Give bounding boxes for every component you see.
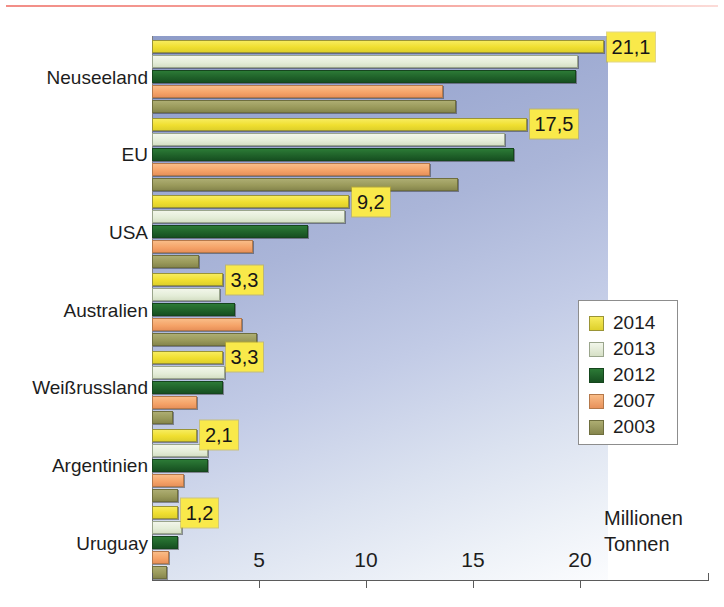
bar-eu-2013 bbox=[152, 133, 505, 146]
bar-weißrussland-2012 bbox=[152, 381, 223, 394]
legend-item-2012: 2012 bbox=[589, 362, 677, 388]
bar-neuseeland-2007 bbox=[152, 85, 443, 98]
bar-eu-2003 bbox=[152, 178, 458, 191]
bar-neuseeland-2014 bbox=[152, 40, 604, 53]
x-tick-5 bbox=[259, 580, 260, 588]
legend-label-2013: 2013 bbox=[613, 338, 655, 360]
unit-line-2: Tonnen bbox=[604, 531, 683, 557]
x-tick-label-20: 20 bbox=[568, 548, 591, 572]
x-tick-20 bbox=[580, 580, 581, 588]
legend-swatch-2013-icon bbox=[589, 342, 604, 357]
bar-uruguay-2003 bbox=[152, 566, 167, 579]
bar-argentinien-2007 bbox=[152, 474, 184, 487]
legend: 2014 2013 2012 2007 2003 bbox=[578, 300, 678, 445]
bar-neuseeland-2013 bbox=[152, 55, 578, 68]
category-label-neuseeland: Neuseeland bbox=[8, 67, 148, 89]
axis-unit-caption: Millionen Tonnen bbox=[604, 505, 683, 558]
legend-label-2012: 2012 bbox=[613, 364, 655, 386]
bar-australien-2012 bbox=[152, 303, 235, 316]
legend-item-2014: 2014 bbox=[589, 310, 677, 336]
legend-swatch-2012-icon bbox=[589, 368, 604, 383]
value-label-argentinien: 2,1 bbox=[200, 421, 238, 450]
bar-uruguay-2012 bbox=[152, 536, 178, 549]
bar-eu-2014 bbox=[152, 118, 527, 131]
bar-argentinien-2003 bbox=[152, 489, 178, 502]
value-label-usa: 9,2 bbox=[352, 187, 390, 216]
category-label-uruguay: Uruguay bbox=[8, 533, 148, 555]
legend-label-2014: 2014 bbox=[613, 312, 655, 334]
bar-weißrussland-2003 bbox=[152, 411, 173, 424]
value-label-neuseeland: 21,1 bbox=[607, 32, 656, 61]
bar-usa-2003 bbox=[152, 255, 199, 268]
category-label-usa: USA bbox=[8, 222, 148, 244]
legend-label-2007: 2007 bbox=[613, 390, 655, 412]
x-tick-label-15: 15 bbox=[461, 548, 484, 572]
legend-swatch-2003-icon bbox=[589, 420, 604, 435]
category-label-eu: EU bbox=[8, 144, 148, 166]
legend-item-2007: 2007 bbox=[589, 388, 677, 414]
bar-eu-2007 bbox=[152, 163, 430, 176]
bar-argentinien-2014 bbox=[152, 429, 197, 442]
bar-argentinien-2012 bbox=[152, 459, 208, 472]
x-axis-start-cap bbox=[152, 573, 153, 581]
bar-neuseeland-2012 bbox=[152, 70, 576, 83]
x-tick-label-10: 10 bbox=[354, 548, 377, 572]
bar-uruguay-2007 bbox=[152, 551, 169, 564]
value-label-weißrussland: 3,3 bbox=[226, 343, 264, 372]
bar-usa-2012 bbox=[152, 225, 308, 238]
bar-uruguay-2014 bbox=[152, 506, 178, 519]
bar-weißrussland-2014 bbox=[152, 351, 223, 364]
bar-neuseeland-2003 bbox=[152, 100, 456, 113]
value-label-uruguay: 1,2 bbox=[181, 498, 219, 527]
bar-usa-2007 bbox=[152, 240, 253, 253]
bar-uruguay-2013 bbox=[152, 521, 182, 534]
bar-australien-2014 bbox=[152, 273, 223, 286]
bar-eu-2012 bbox=[152, 148, 514, 161]
value-label-australien: 3,3 bbox=[226, 265, 264, 294]
x-axis-line bbox=[152, 580, 709, 581]
legend-item-2003: 2003 bbox=[589, 414, 677, 440]
category-label-weißrussland: Weißrussland bbox=[8, 377, 148, 399]
x-tick-10 bbox=[366, 580, 367, 588]
unit-line-1: Millionen bbox=[604, 505, 683, 531]
bar-australien-2013 bbox=[152, 288, 220, 301]
category-axis-labels: NeuseelandEUUSAAustralienWeißrusslandArg… bbox=[0, 0, 148, 607]
x-tick-15 bbox=[473, 580, 474, 588]
legend-swatch-2007-icon bbox=[589, 394, 604, 409]
x-tick-label-5: 5 bbox=[253, 548, 265, 572]
category-label-argentinien: Argentinien bbox=[8, 455, 148, 477]
category-label-australien: Australien bbox=[8, 300, 148, 322]
bar-usa-2013 bbox=[152, 210, 345, 223]
legend-swatch-2014-icon bbox=[589, 316, 604, 331]
bar-chart: NeuseelandEUUSAAustralienWeißrusslandArg… bbox=[0, 0, 724, 607]
value-label-eu: 17,5 bbox=[530, 110, 579, 139]
legend-label-2003: 2003 bbox=[613, 416, 655, 438]
bar-australien-2007 bbox=[152, 318, 242, 331]
x-axis-end-cap bbox=[708, 573, 709, 581]
bar-usa-2014 bbox=[152, 195, 349, 208]
bar-weißrussland-2013 bbox=[152, 366, 225, 379]
legend-item-2013: 2013 bbox=[589, 336, 677, 362]
bar-weißrussland-2007 bbox=[152, 396, 197, 409]
